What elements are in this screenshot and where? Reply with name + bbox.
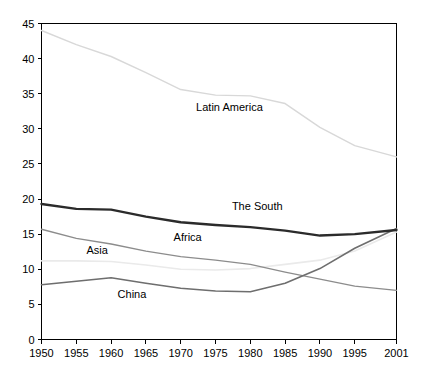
x-axis-ticks xyxy=(42,340,397,344)
y-axis-ticks xyxy=(38,24,42,340)
series-label-africa: Africa xyxy=(174,231,203,243)
x-tick-label: 1970 xyxy=(168,347,192,359)
series-line-the-south xyxy=(42,204,397,236)
y-tick-label: 25 xyxy=(22,158,34,170)
series-labels: Latin AmericaThe SouthAfricaAsiaChina xyxy=(86,101,282,300)
series-label-latin-america: Latin America xyxy=(196,101,264,113)
y-tick-label: 10 xyxy=(22,263,34,275)
y-tick-label: 35 xyxy=(22,88,34,100)
line-chart: 051015202530354045 195019551960196519701… xyxy=(0,0,427,374)
y-tick-label: 20 xyxy=(22,193,34,205)
x-tick-label: 1955 xyxy=(64,347,88,359)
series-label-china: China xyxy=(118,288,148,300)
x-axis-tick-labels: 1950195519601965197019751980198519901995… xyxy=(29,347,408,359)
x-tick-label: 1965 xyxy=(134,347,158,359)
x-tick-label: 1995 xyxy=(342,347,366,359)
y-tick-label: 30 xyxy=(22,123,34,135)
y-tick-label: 15 xyxy=(22,228,34,240)
x-tick-label: 1980 xyxy=(238,347,262,359)
y-tick-label: 0 xyxy=(28,334,34,346)
x-tick-label: 1990 xyxy=(308,347,332,359)
x-tick-label: 1975 xyxy=(203,347,227,359)
series-label-asia: Asia xyxy=(86,244,108,256)
x-tick-label: 1950 xyxy=(29,347,53,359)
x-tick-label: 1960 xyxy=(99,347,123,359)
y-tick-label: 40 xyxy=(22,53,34,65)
x-tick-label: 1985 xyxy=(273,347,297,359)
series-line-africa xyxy=(42,229,397,290)
chart-container: 051015202530354045 195019551960196519701… xyxy=(0,0,427,374)
plot-frame xyxy=(42,24,397,340)
y-axis-tick-labels: 051015202530354045 xyxy=(22,18,34,346)
y-tick-label: 5 xyxy=(28,298,34,310)
series-line-latin-america xyxy=(42,31,397,157)
plot-border xyxy=(42,24,397,340)
x-tick-label: 2001 xyxy=(384,347,408,359)
y-tick-label: 45 xyxy=(22,18,34,30)
series-label-the-south: The South xyxy=(232,200,283,212)
